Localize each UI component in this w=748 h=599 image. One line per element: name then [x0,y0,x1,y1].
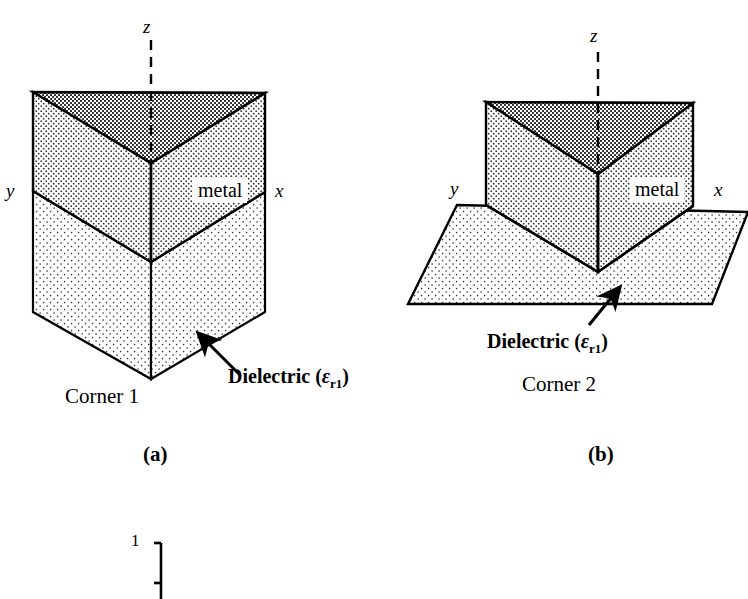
diagram-canvas [0,0,748,599]
panel-a-dielectric-label: Dielectric (εr1) [228,366,349,390]
panel-b-axis-label-y: y [450,179,458,198]
panel-b-dielectric-text: Dielectric ( [487,330,581,352]
panel-b-axis-label-x: x [714,180,722,199]
panel-b-dielectric-label: Dielectric (εr1) [487,331,608,355]
panel-b-caption: (b) [588,444,614,465]
panel-a-top-back-edge [33,92,265,93]
panel-b-top-back-edge [486,102,693,103]
panel-b-dielectric-subscript: r1 [589,341,601,356]
figure-page: z y x metal Dielectric (εr1) Corner 1 (a… [0,0,748,599]
panel-b-dielectric-close: ) [601,330,608,352]
panel-a-axis-label-x: x [275,181,283,200]
panel-b-drawing [408,52,748,325]
panel-a-dielectric-epsilon: ε [322,365,330,387]
panel-a-dielectric-close: ) [342,365,349,387]
panel-b-dielectric-epsilon: ε [581,330,589,352]
panel-a-dielectric-text: Dielectric ( [228,365,322,387]
panel-a-metal-label: metal [193,178,247,203]
partial-figure-drawing [154,543,161,599]
panel-a-caption: (a) [143,444,168,465]
panel-a-corner-label: Corner 1 [65,386,139,407]
panel-b-metal-label: metal [630,177,684,202]
panel-b-corner-label: Corner 2 [522,374,596,395]
panel-a-drawing [33,40,265,379]
panel-b-axis-label-z: z [590,26,597,45]
panel-a-axis-label-z: z [143,17,150,36]
panel-a-dielectric-subscript: r1 [330,376,342,391]
panel-a-axis-label-y: y [6,181,14,200]
partial-figure-tick-label: 1 [131,532,140,549]
